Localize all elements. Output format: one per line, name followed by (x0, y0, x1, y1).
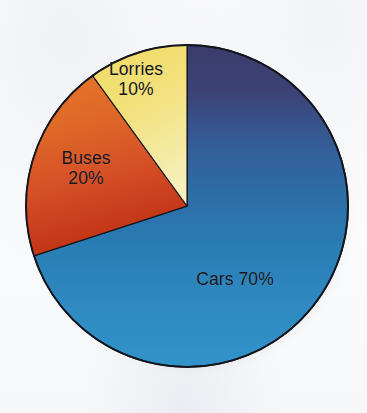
slice-label-cars-text: Cars 70% (168, 269, 302, 289)
slice-label-lorries-name: Lorries (84, 59, 188, 79)
slice-label-buses: Buses 20% (34, 148, 138, 189)
slice-label-buses-value: 20% (34, 168, 138, 188)
pie-chart-figure: Lorries 10% Buses 20% Cars 70% (0, 0, 367, 413)
slice-label-lorries-value: 10% (84, 79, 188, 99)
slice-label-buses-name: Buses (34, 148, 138, 168)
slice-label-lorries: Lorries 10% (84, 59, 188, 100)
slice-label-cars: Cars 70% (168, 269, 302, 289)
